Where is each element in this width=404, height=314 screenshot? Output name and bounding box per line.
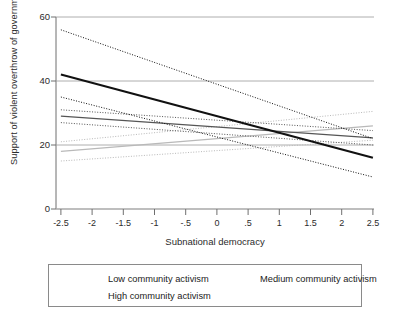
x-tick-label: 0 <box>200 218 234 228</box>
y-tick-labels: 60 40 20 0 <box>20 0 50 230</box>
y-tick-label: 40 <box>22 75 50 86</box>
ci-upper-high <box>61 30 373 139</box>
legend-item-high: High community activism <box>61 288 211 304</box>
ci-lower-medium <box>61 123 373 145</box>
legend-item-low: Low community activism <box>61 271 209 287</box>
chart-legend: Low community activism Medium community … <box>48 264 362 307</box>
x-tick-label: -.5 <box>169 218 203 228</box>
series-layer <box>61 30 373 177</box>
y-tick-label: 20 <box>22 139 50 150</box>
x-tick-label: -1 <box>138 218 172 228</box>
x-tick-marks <box>61 209 373 215</box>
legend-label-medium: Medium community activism <box>260 274 377 284</box>
x-tick-label: -2 <box>75 218 109 228</box>
x-tick-label: 1 <box>262 218 296 228</box>
x-tick-label: 2 <box>325 218 359 228</box>
ci-lower-low <box>61 140 373 161</box>
x-tick-label: 1.5 <box>294 218 328 228</box>
legend-label-low: Low community activism <box>108 274 209 284</box>
x-axis-label: Subnational democracy <box>56 236 374 247</box>
legend-item-medium: Medium community activism <box>213 271 377 287</box>
x-tick-label: .5 <box>231 218 265 228</box>
y-axis-label: Support of violent overthrow of governme… <box>9 0 19 175</box>
legend-label-high: High community activism <box>108 291 211 301</box>
series-line-low <box>61 126 373 152</box>
x-tick-label: 2.5 <box>356 218 390 228</box>
y-tick-label: 0 <box>22 203 50 214</box>
x-tick-label: -2.5 <box>44 218 78 228</box>
y-tick-marks <box>51 17 56 209</box>
x-tick-label: -1.5 <box>106 218 140 228</box>
gridlines <box>56 17 374 145</box>
chart-figure: 60 40 20 0 -2.5 -2 -1.5 -1 -.5 0 .5 1 1.… <box>0 0 404 314</box>
y-tick-label: 60 <box>22 11 50 22</box>
